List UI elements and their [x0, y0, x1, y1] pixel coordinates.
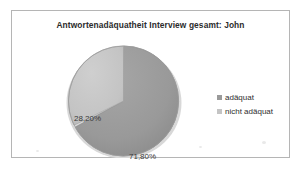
chart-frame: Antwortenadäquatheit Interview gesamt: J… [11, 10, 290, 158]
legend-square-marker-icon [217, 95, 222, 100]
scan-artifact [262, 141, 266, 144]
pie-svg [63, 44, 184, 158]
pie-chart-figure: Antwortenadäquatheit Interview gesamt: J… [0, 0, 303, 173]
chart-legend: adäquat nicht adäquat [217, 91, 297, 119]
legend-item-adaequat[interactable]: adäquat [217, 91, 297, 103]
chart-title: Antwortenadäquatheit Interview gesamt: J… [12, 20, 289, 30]
pie-plot-area: 71,80% 28,20% [63, 44, 184, 158]
legend-label-adaequat: adäquat [225, 93, 254, 102]
scan-artifact [36, 150, 39, 152]
legend-item-nicht-adaequat[interactable]: nicht adäquat [217, 105, 297, 117]
legend-label-nicht-adaequat: nicht adäquat [225, 107, 273, 116]
scan-artifact [199, 146, 202, 148]
legend-square-marker-icon [217, 109, 222, 114]
pie-data-label-adaequat: 71,80% [129, 152, 156, 161]
pie-data-label-nicht-adaequat: 28,20% [74, 114, 101, 123]
